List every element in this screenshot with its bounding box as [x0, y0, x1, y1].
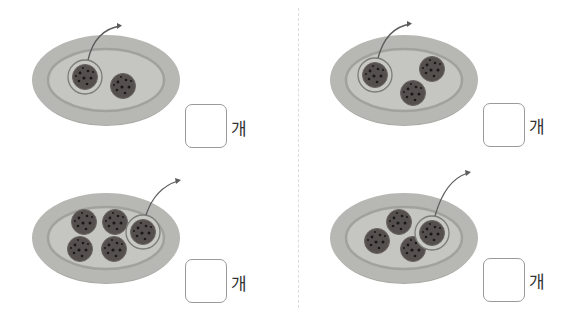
answer-box-2[interactable]: [483, 103, 525, 147]
plate-4: [330, 170, 478, 284]
unit-label-1: 개: [231, 121, 247, 138]
plate-1: [32, 23, 180, 126]
unit-label-3: 개: [231, 276, 247, 293]
plate-2: [330, 21, 478, 126]
unit-label-2: 개: [529, 119, 545, 136]
plate-3: [32, 178, 181, 284]
answer-box-3[interactable]: [185, 259, 227, 303]
unit-label-4: 개: [529, 274, 545, 291]
answer-box-1[interactable]: [185, 104, 227, 148]
answer-box-4[interactable]: [483, 258, 525, 302]
